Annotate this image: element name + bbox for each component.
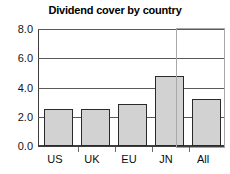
x-tick-2 xyxy=(115,147,116,152)
x-tick-label-us: US xyxy=(40,153,70,165)
bar-us xyxy=(44,109,73,146)
x-tick-3 xyxy=(152,147,153,152)
x-tick-label-uk: UK xyxy=(77,153,107,165)
x-axis-line xyxy=(38,146,225,147)
gridline-4 xyxy=(38,88,225,89)
gridline-6 xyxy=(38,58,225,59)
gridline-8 xyxy=(38,29,225,30)
y-tick-label-2: 2.0 xyxy=(1,112,33,123)
x-tick-1 xyxy=(78,147,79,152)
x-tick-label-jn: JN xyxy=(151,153,181,165)
bar-jn xyxy=(155,76,184,146)
bar-chart-figure: Dividend cover by country 8.0 6.0 4.0 2.… xyxy=(0,0,230,174)
bar-eu xyxy=(118,104,147,146)
x-tick-label-eu: EU xyxy=(114,153,144,165)
y-tick-label-0: 0.0 xyxy=(1,141,33,152)
y-tick-label-4: 4.0 xyxy=(1,83,33,94)
y-tick-label-8: 8.0 xyxy=(1,24,33,35)
plot-area xyxy=(38,29,225,146)
bar-uk xyxy=(81,109,110,146)
x-tick-label-all: All xyxy=(188,153,218,165)
x-tick-4 xyxy=(189,147,190,152)
y-tick-label-6: 6.0 xyxy=(1,53,33,64)
bar-all xyxy=(192,99,221,146)
